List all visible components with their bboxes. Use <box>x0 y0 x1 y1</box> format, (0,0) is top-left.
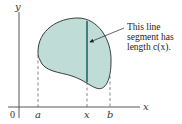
annotation-line-3: length c(x). <box>127 42 171 53</box>
region-shape <box>38 18 111 89</box>
tick-label-a: a <box>35 109 41 120</box>
tick-label-x: x <box>84 109 90 120</box>
annotation-line-2: segment has <box>127 32 174 42</box>
cross-section-diagram: y x 0 a x b This line segment has length… <box>0 0 182 124</box>
origin-label: 0 <box>10 109 15 120</box>
x-axis-label: x <box>143 101 149 112</box>
y-axis-label: y <box>14 1 21 12</box>
tick-label-b: b <box>107 109 113 120</box>
annotation-line-1: This line <box>127 22 161 32</box>
